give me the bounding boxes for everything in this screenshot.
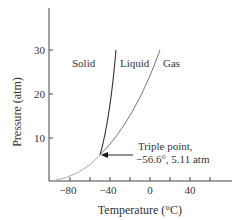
y-tick-label-30: 30 xyxy=(34,44,46,56)
x-tick-label-m80: −80 xyxy=(59,184,77,196)
sublimation-curve xyxy=(52,155,100,181)
phase-diagram-chart: 30 20 10 −80 −40 0 40 Temperature (°C) P… xyxy=(0,0,244,220)
region-label-gas: Gas xyxy=(163,57,180,69)
x-tick-label-40: 40 xyxy=(185,184,197,196)
x-axis-label: Temperature (°C) xyxy=(98,203,182,217)
region-label-solid: Solid xyxy=(72,57,96,69)
triple-point-label-line2: −56.6°, 5.11 atm xyxy=(136,153,210,165)
y-tick-label-20: 20 xyxy=(34,88,46,100)
y-tick-label-10: 10 xyxy=(34,132,46,144)
region-label-liquid: Liquid xyxy=(120,57,150,69)
x-ticks xyxy=(70,177,210,181)
x-tick-label-m40: −40 xyxy=(99,184,117,196)
x-tick-label-0: 0 xyxy=(147,184,153,196)
y-ticks xyxy=(49,50,53,138)
y-axis-label: Pressure (atm) xyxy=(10,77,24,147)
triple-point-label-line1: Triple point, xyxy=(138,140,193,152)
